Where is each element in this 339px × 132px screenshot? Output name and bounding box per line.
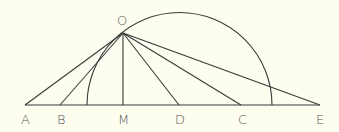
line-OA [25,33,123,105]
label-B: B [57,112,66,127]
line-OC [123,33,241,105]
label-A: A [21,112,30,127]
label-D: D [175,112,185,127]
semicircle-arc [87,13,272,106]
label-M: M [118,112,129,127]
label-E: E [316,112,324,127]
geometry-diagram: O A B M D C E [0,0,339,132]
label-C: C [238,112,247,127]
line-OE [123,33,320,105]
line-OB [60,33,123,105]
label-O: O [117,13,127,28]
